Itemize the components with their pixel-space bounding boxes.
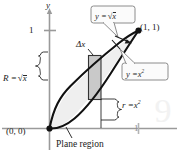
watermark-glyph: 9: [155, 92, 172, 129]
callout-upper-radicand: x: [112, 11, 116, 21]
svg-text:9: 9: [155, 92, 172, 129]
point-label-1-1: (1, 1): [140, 23, 160, 32]
outer-radius-label-lhs: R =: [3, 73, 17, 83]
sqrt-overbar-icon: [23, 75, 26, 76]
outer-radius-sqrt-group: √x: [17, 74, 27, 83]
brace-outer-radius-R: [36, 52, 44, 80]
callout-lower-curve-text: y =x2: [126, 68, 144, 79]
delta-x-leader-line: [88, 49, 93, 55]
callout-upper-sqrt-group: √x: [107, 11, 116, 21]
point-marker-origin: [46, 125, 52, 131]
callout-upper-lhs: y =: [95, 11, 107, 21]
point-label-origin: (0, 0): [6, 127, 26, 136]
y-axis-label: y: [46, 1, 50, 10]
inner-radius-exponent: 2: [138, 99, 141, 105]
callout-upper-curve-text: y =√x: [95, 11, 116, 21]
brace-inner-radius-r: [115, 99, 122, 120]
inner-radius-label-lhs: r =: [122, 100, 134, 110]
delta-x-label: Δx: [76, 40, 85, 49]
callout-lower-exponent: 2: [141, 68, 144, 74]
callout-sqrt-overbar-icon: [113, 12, 116, 13]
callout-upper-curve-tail: [103, 23, 118, 38]
x-axis-tick-label-1: 1: [134, 124, 139, 133]
y-axis-tick-label-1: 1: [29, 26, 34, 35]
math-figure-plane-region: 9: [0, 0, 177, 158]
inner-radius-label: r =x2: [122, 100, 141, 110]
callout-lower-lhs: y =: [126, 69, 138, 79]
outer-radius-label: R =√x: [3, 74, 27, 83]
plane-region-caption: Plane region: [56, 140, 104, 150]
